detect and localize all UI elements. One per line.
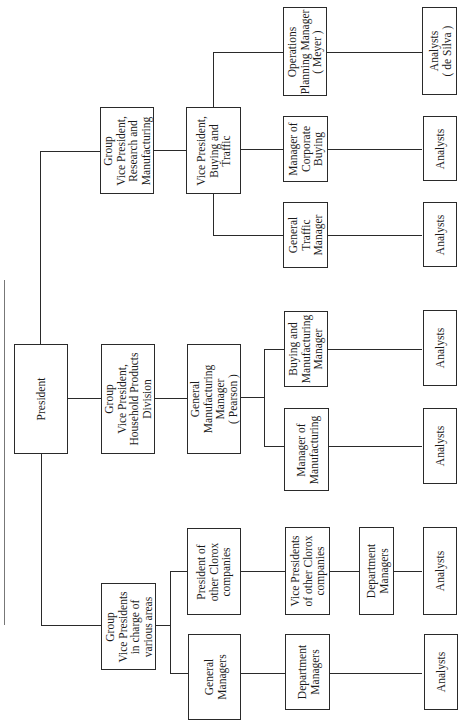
connector	[326, 52, 422, 53]
connector	[213, 193, 214, 236]
connector	[170, 571, 171, 673]
node-president: President	[14, 344, 68, 454]
connector	[393, 571, 422, 572]
node-label: Analysts	[434, 426, 447, 466]
node-label: General Manufacturing Manager ( Pearson …	[189, 365, 239, 433]
node-label: Analysts	[435, 652, 448, 692]
node-gvp-research-manufacturing: Group Vice President, Research and Manuf…	[100, 107, 154, 194]
node-operations-planning-meyer: Operations Planning Manager ( Meyer )	[283, 7, 327, 96]
connector	[40, 151, 100, 152]
node-vp-other-clorox: Vice Presidents of other Clorox companie…	[285, 527, 330, 615]
connector	[41, 625, 101, 626]
node-label: Analysts	[434, 214, 447, 254]
connector	[40, 151, 41, 344]
connector	[154, 398, 187, 399]
node-vp-buying-traffic: Vice President, Buying and Traffic	[186, 107, 241, 194]
node-mgr-manufacturing: Manager of Manufacturing	[284, 408, 329, 491]
connector	[264, 349, 284, 350]
node-analysts-manufacturing: Analysts	[423, 408, 457, 484]
node-label: Operations Planning Manager ( Meyer )	[286, 9, 324, 94]
node-label: Department Managers	[364, 544, 389, 598]
node-label: Vice Presidents of other Clorox companie…	[289, 535, 327, 606]
node-analysts-other-clorox: Analysts	[423, 527, 457, 615]
connector	[327, 349, 422, 350]
node-label: President	[35, 378, 48, 421]
node-dept-managers-gm: Department Managers	[285, 634, 330, 710]
connector	[327, 235, 422, 236]
node-label: General Traffic Manager	[287, 215, 325, 256]
connector	[155, 625, 170, 626]
node-label: Vice President, Buying and Traffic	[195, 116, 233, 186]
node-label: Analysts	[434, 328, 447, 368]
connector	[170, 571, 187, 572]
node-gvp-various-areas: Group Vice Presidents in charge of vario…	[101, 583, 156, 670]
node-analysts-corporate-buying: Analysts	[423, 116, 457, 181]
connector	[213, 235, 283, 236]
node-label: Group Vice President, Household Products…	[103, 353, 153, 446]
node-analysts-desilva: Analysts ( de Silva )	[422, 7, 457, 95]
connector	[264, 349, 265, 446]
node-label: Department Managers	[295, 645, 320, 699]
connector	[327, 149, 422, 150]
node-analysts-traffic: Analysts	[423, 202, 457, 267]
connector	[41, 453, 42, 626]
node-gvp-household-products: Group Vice President, Household Products…	[101, 344, 155, 454]
node-label: General Managers	[202, 654, 227, 699]
node-analysts-gm: Analysts	[424, 634, 458, 710]
connector	[153, 150, 186, 151]
node-buying-manufacturing-mgr: Buying and Manufacturing Manager	[284, 311, 328, 387]
node-label: Group Vice President, Research and Manuf…	[102, 116, 152, 186]
connector	[213, 52, 214, 107]
node-label: President of other Clorox companies	[195, 542, 233, 600]
connector	[240, 149, 283, 150]
node-dept-managers-other: Department Managers	[359, 527, 394, 615]
connector	[240, 673, 285, 674]
node-general-traffic: General Traffic Manager	[283, 202, 328, 268]
node-gm-manufacturing-pearson: General Manufacturing Manager ( Pearson …	[187, 344, 241, 454]
node-label: Manager of Manufacturing	[294, 415, 319, 483]
node-label: Buying and Manufacturing Manager	[287, 315, 325, 383]
connector	[170, 673, 188, 674]
connector	[328, 446, 422, 447]
node-corporate-buying: Manager of Corporate Buying	[283, 116, 328, 182]
connector	[329, 571, 359, 572]
node-label: Analysts	[434, 128, 447, 168]
node-president-other-clorox: President of other Clorox companies	[187, 528, 241, 615]
connector	[67, 398, 101, 399]
node-analysts-buying-mfg: Analysts	[423, 310, 457, 386]
connector	[329, 673, 422, 674]
connector	[240, 571, 285, 572]
node-label: Analysts ( de Silva )	[427, 26, 452, 77]
node-label: Group Vice Presidents in charge of vario…	[104, 591, 154, 662]
connector	[264, 446, 284, 447]
page-rule	[4, 280, 5, 625]
node-label: Manager of Corporate Buying	[287, 122, 325, 175]
connector	[213, 52, 283, 53]
connector	[240, 397, 264, 398]
node-label: Analysts	[434, 551, 447, 591]
node-general-managers: General Managers	[188, 634, 241, 720]
